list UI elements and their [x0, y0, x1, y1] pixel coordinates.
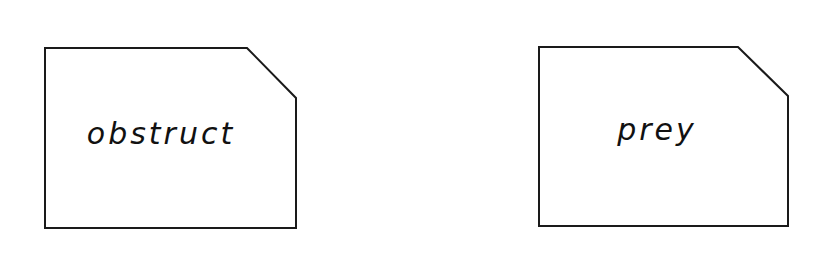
card-prey: prey [538, 46, 790, 228]
card-label: obstruct [44, 116, 298, 151]
card-label: prey [538, 112, 790, 147]
card-obstruct: obstruct [44, 47, 298, 230]
